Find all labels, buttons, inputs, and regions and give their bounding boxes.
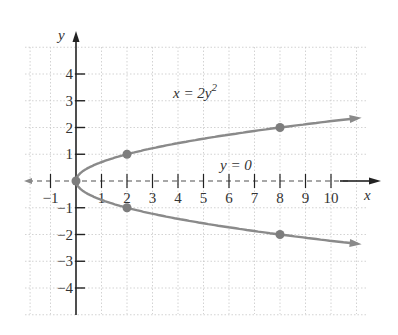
data-point [123,203,132,212]
y-tick-label: 1 [66,146,74,162]
x-tick-label: 8 [276,190,284,206]
y-tick-label: 3 [66,93,74,109]
line-label: y = 0 [218,157,252,173]
y-axis-arrow-icon [73,31,80,42]
y-tick-label: −2 [57,227,73,243]
x-tick-label: 5 [200,190,208,206]
data-point [276,123,285,132]
chart-canvas: −1123456789104321−1−2−3−4 y x x = 2y2 y … [0,0,398,335]
left-arrow-icon [24,178,32,184]
data-point [276,230,285,239]
y-tick-label: 2 [66,120,74,136]
x-axis-label: x [363,187,371,203]
y-tick-label: −3 [57,253,73,269]
curve-arrow-icon [349,115,361,123]
data-point [123,150,132,159]
x-tick-label: 6 [225,190,233,206]
x-tick-label: 4 [174,190,182,206]
x-tick-label: 7 [251,190,259,206]
x-tick-label: 10 [324,190,339,206]
x-tick-label: 9 [302,190,310,206]
y-tick-label: −1 [57,200,73,216]
y-tick-label: 4 [66,66,74,82]
y-tick-label: −4 [57,280,73,296]
curve-arrow-icon [349,239,361,247]
data-point [72,177,81,186]
y-axis-label: y [56,27,65,43]
x-tick-label: 3 [149,190,157,206]
equation-label: x = 2y2 [172,81,217,101]
x-axis-arrow-icon [369,178,381,185]
